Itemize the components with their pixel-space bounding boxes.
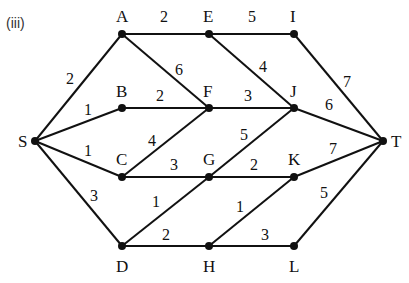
node-T <box>379 137 387 145</box>
edge-weight-I-T: 7 <box>343 73 351 90</box>
node-label-D: D <box>116 257 128 276</box>
node-label-G: G <box>203 150 215 169</box>
node-label-B: B <box>116 82 127 101</box>
edge-weight-A-E: 2 <box>160 8 168 25</box>
edge-weight-K-T: 7 <box>329 140 337 157</box>
weighted-network-diagram: (iii) 2113262431254352137675 SABCDEFGHIJ… <box>0 0 409 283</box>
edge-weight-S-D: 3 <box>90 187 98 204</box>
edge-L-T <box>294 141 383 246</box>
edge-weight-C-F: 4 <box>148 132 156 149</box>
edge-S-D <box>35 141 122 246</box>
node-K <box>290 173 298 181</box>
node-label-A: A <box>116 7 129 26</box>
edge-weight-E-J: 4 <box>259 58 267 75</box>
node-label-C: C <box>116 150 127 169</box>
edge-weight-C-G: 3 <box>170 156 178 173</box>
edge-weight-H-K: 1 <box>236 198 244 215</box>
node-label-L: L <box>289 257 299 276</box>
edge-weight-E-I: 5 <box>248 8 256 25</box>
edge-H-K <box>209 177 294 246</box>
node-label-E: E <box>203 7 213 26</box>
edge-A-F <box>122 34 209 108</box>
node-S <box>31 137 39 145</box>
node-label-I: I <box>290 7 296 26</box>
node-J <box>290 104 298 112</box>
node-label-T: T <box>391 132 402 151</box>
edge-weight-H-L: 3 <box>261 226 269 243</box>
edge-weight-G-J: 5 <box>240 126 248 143</box>
edge-weight-J-T: 6 <box>325 96 333 113</box>
edge-weights-group: 2113262431254352137675 <box>66 8 351 243</box>
edge-weight-B-F: 2 <box>156 87 164 104</box>
node-labels-group: SABCDEFGHIJKLT <box>18 7 402 276</box>
edge-weight-G-K: 2 <box>250 156 258 173</box>
node-F <box>205 104 213 112</box>
edge-weight-S-C: 1 <box>84 142 92 159</box>
edge-weight-D-H: 2 <box>162 226 170 243</box>
edge-weight-F-J: 3 <box>244 87 252 104</box>
part-label: (iii) <box>6 15 25 31</box>
edge-K-T <box>294 141 383 177</box>
edge-weight-S-B: 1 <box>84 101 92 118</box>
node-label-F: F <box>203 82 212 101</box>
node-L <box>290 242 298 250</box>
node-label-S: S <box>18 132 27 151</box>
node-G <box>205 173 213 181</box>
edge-weight-S-A: 2 <box>66 70 74 87</box>
node-D <box>118 242 126 250</box>
edge-weight-D-G: 1 <box>152 193 160 210</box>
node-label-J: J <box>290 82 297 101</box>
edge-C-F <box>122 108 209 177</box>
edge-weight-L-T: 5 <box>320 184 328 201</box>
node-B <box>118 104 126 112</box>
node-C <box>118 173 126 181</box>
edge-weight-A-F: 6 <box>175 61 183 78</box>
node-I <box>290 30 298 38</box>
node-label-K: K <box>288 150 301 169</box>
node-A <box>118 30 126 38</box>
node-E <box>205 30 213 38</box>
node-label-H: H <box>203 257 215 276</box>
edge-S-C <box>35 141 122 177</box>
node-H <box>205 242 213 250</box>
